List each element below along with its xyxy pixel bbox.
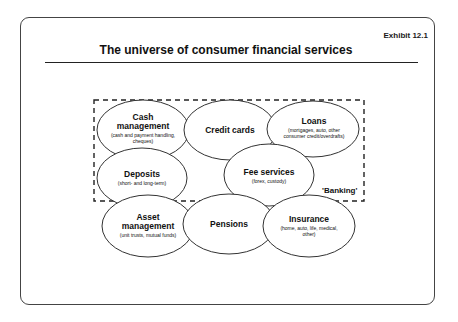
- service-cash-management: Cash management (cash and payment handli…: [108, 113, 178, 144]
- services-diagram: [0, 0, 458, 322]
- service-asset-management: Asset management (unit trusts, mutual fu…: [117, 213, 179, 239]
- service-credit-cards: Credit cards: [190, 126, 270, 135]
- service-deposits: Deposits (short- and long-term): [102, 170, 182, 187]
- service-fee-services: Fee services (forex, custody): [229, 168, 309, 185]
- service-insurance: Insurance (home, auto, life, medical, ot…: [279, 215, 339, 237]
- banking-group-label: 'Banking': [322, 186, 357, 195]
- service-loans: Loans (mortgages, auto, other consumer c…: [283, 117, 345, 139]
- service-pensions: Pensions: [189, 220, 269, 229]
